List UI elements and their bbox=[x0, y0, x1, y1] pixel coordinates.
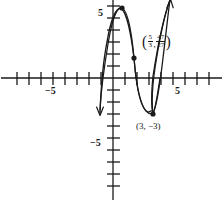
y-axis-tick-label-neg-5: −5 bbox=[90, 138, 101, 148]
point-label-inflection: ( 5 3 , 47 27 ) bbox=[142, 34, 171, 50]
inflection-y-denominator: 27 bbox=[156, 41, 165, 49]
point-inflection bbox=[131, 55, 136, 60]
inflection-x-numerator: 5 bbox=[148, 34, 154, 41]
inflection-x-denominator: 3 bbox=[148, 41, 154, 49]
inflection-x-fraction: 5 3 bbox=[148, 34, 154, 50]
point-local-min bbox=[150, 111, 155, 116]
graph-figure: −5 5 5 −5 (3, −3) ( 5 3 , 47 27 ) bbox=[0, 0, 223, 207]
point-label-local-min: (3, −3) bbox=[136, 122, 161, 131]
point-local-max bbox=[119, 5, 124, 10]
coordinate-plane-svg bbox=[0, 0, 223, 207]
y-axis-tick-label-pos-5: 5 bbox=[98, 8, 103, 18]
inflection-y-fraction: 47 27 bbox=[156, 34, 165, 50]
inflection-y-numerator: 47 bbox=[156, 34, 165, 41]
x-axis-tick-label-pos-5: 5 bbox=[175, 86, 180, 96]
inflection-close-paren: ) bbox=[166, 33, 171, 50]
x-axis-tick-label-neg-5: −5 bbox=[45, 86, 56, 96]
inflection-open-paren: ( bbox=[142, 33, 147, 50]
